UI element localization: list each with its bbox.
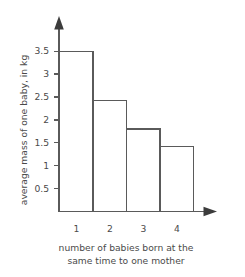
x-tick-label-1: 2 [107, 223, 113, 234]
chart-canvas: 0.5 1 1.5 2 2.5 3 3.5 1 2 3 4 number of … [0, 0, 245, 277]
y-tick-label-4: 2.5 [34, 91, 49, 102]
x-tick-label-2: 3 [140, 223, 146, 234]
x-tick-label-3: 4 [174, 223, 180, 234]
bar-4 [160, 146, 194, 211]
bar-chart-figure: 0.5 1 1.5 2 2.5 3 3.5 1 2 3 4 number of … [0, 0, 245, 277]
x-axis-title: number of babies born at the same time t… [59, 242, 194, 266]
x-axis-title-line-1: number of babies born at the [59, 242, 194, 253]
y-tick-label-6: 3.5 [34, 45, 49, 56]
bar-2 [93, 101, 127, 212]
y-tick-label-2: 1.5 [34, 137, 49, 148]
y-axis-arrow-icon [54, 16, 64, 30]
x-axis-tick-labels: 1 2 3 4 [73, 223, 180, 234]
bar-series [60, 51, 194, 211]
bar-3 [127, 129, 161, 211]
y-axis-tick-labels: 0.5 1 1.5 2 2.5 3 3.5 [34, 45, 49, 193]
y-tick-label-1: 1 [43, 160, 49, 171]
x-tick-label-0: 1 [73, 223, 79, 234]
y-axis-title-text: average mass of one baby, in kg [18, 55, 29, 205]
x-axis-arrow-icon [204, 207, 218, 217]
y-tick-label-0: 0.5 [34, 183, 49, 194]
bar-1 [60, 51, 94, 211]
x-axis-title-line-2: same time to one mother [67, 255, 184, 266]
y-tick-label-5: 3 [43, 68, 49, 79]
y-axis-ticks [54, 51, 60, 188]
y-tick-label-3: 2 [43, 114, 49, 125]
y-axis-title: average mass of one baby, in kg [18, 55, 29, 205]
